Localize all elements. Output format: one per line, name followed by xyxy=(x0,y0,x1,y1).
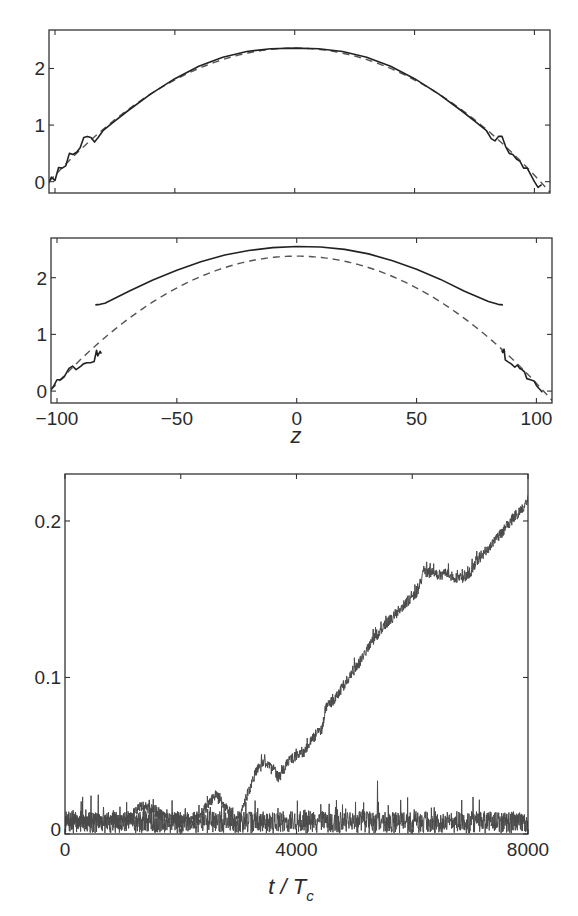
panel-c-ticks xyxy=(65,474,528,834)
panel-c-series-growing-signal xyxy=(65,495,528,826)
panel-c-x-tick-label: 0 xyxy=(60,839,71,860)
panel-c-y-tick-label: 0.1 xyxy=(35,667,61,688)
panel-b-series-solid-upper-arc xyxy=(95,247,503,305)
panel-a-series-solid-profile xyxy=(48,48,542,187)
panel-c-x-axis-label-main: t / T xyxy=(268,874,307,899)
panel-c-x-tick-label: 4000 xyxy=(275,839,317,860)
panel-c-plot-area xyxy=(65,495,528,833)
panel-b-x-tick-label: 100 xyxy=(521,408,553,429)
panel-c-series-baseline-noise xyxy=(65,781,528,833)
panel-a-y-tick-label: 0 xyxy=(34,172,45,193)
panel-c-time-series: 00.10.2 040008000 t / Tc xyxy=(35,474,550,904)
panel-c-y-tick-labels: 00.10.2 xyxy=(35,511,61,840)
panel-b-x-tick-label: −50 xyxy=(161,408,193,429)
panel-c-x-axis-label-subscript: c xyxy=(306,887,314,904)
panel-b-series-solid-right-edge xyxy=(502,349,543,392)
panel-b-x-tick-label: 50 xyxy=(406,408,427,429)
panel-a-axes-frame xyxy=(49,30,550,193)
panel-b-y-tick-label: 1 xyxy=(36,324,47,345)
panel-c-axes-frame xyxy=(65,474,528,834)
panel-c-y-tick-label: 0 xyxy=(50,819,61,840)
panel-c-x-tick-label: 8000 xyxy=(507,839,549,860)
panel-b-series-dashed-parabola xyxy=(51,256,552,400)
panel-b-density-profile: 012 −100−50050100 z xyxy=(36,238,553,448)
panel-a-ticks xyxy=(49,30,550,193)
panel-b-x-axis-label: z xyxy=(290,423,302,448)
panel-b-plot-area xyxy=(50,247,552,401)
panel-a-y-tick-label: 2 xyxy=(34,58,45,79)
panel-b-y-tick-label: 2 xyxy=(36,268,47,289)
panel-a-plot-area xyxy=(48,48,550,192)
panel-a-density-profile: 012 xyxy=(34,30,550,193)
figure: 012 012 −100−50050100 z 00.10.2 04000800… xyxy=(0,0,578,916)
panel-b-y-tick-label: 0 xyxy=(36,381,47,402)
panel-c-y-tick-label: 0.2 xyxy=(35,511,61,532)
panel-b-x-tick-label: −100 xyxy=(36,408,79,429)
panel-a-y-tick-labels: 012 xyxy=(34,58,45,192)
panel-c-x-axis-label: t / Tc xyxy=(268,874,314,904)
panel-a-y-tick-label: 1 xyxy=(34,115,45,136)
panel-b-series-solid-left-edge xyxy=(50,350,102,391)
panel-b-y-tick-labels: 012 xyxy=(36,268,47,402)
panel-c-x-tick-labels: 040008000 xyxy=(60,839,549,860)
